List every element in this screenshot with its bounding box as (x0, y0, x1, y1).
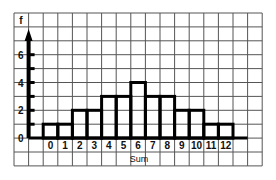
bar-11 (204, 124, 219, 138)
x-tick-11: 11 (206, 140, 217, 151)
x-tick-5: 5 (121, 140, 127, 151)
y-axis-label: f (19, 15, 23, 26)
bar-8 (160, 96, 175, 138)
bar-5 (116, 96, 131, 138)
y-tick-0: 0 (18, 133, 24, 144)
x-tick-6: 6 (135, 140, 141, 151)
bar-0 (43, 124, 58, 138)
y-tick-6: 6 (18, 50, 24, 61)
histogram-chart: 0123456789101112 0246 Sum f (0, 0, 276, 180)
x-tick-9: 9 (179, 140, 185, 151)
bar-4 (102, 96, 117, 138)
x-tick-8: 8 (165, 140, 171, 151)
x-tick-10: 10 (191, 140, 203, 151)
y-tick-labels: 0246 (18, 50, 24, 144)
x-tick-4: 4 (106, 140, 112, 151)
x-tick-0: 0 (48, 140, 54, 151)
y-axis-arrow-icon (25, 29, 33, 41)
y-tick-2: 2 (18, 105, 24, 116)
bar-1 (58, 124, 73, 138)
x-tick-12: 12 (220, 140, 232, 151)
bar-12 (218, 124, 233, 138)
x-tick-7: 7 (150, 140, 156, 151)
x-tick-1: 1 (62, 140, 68, 151)
y-tick-4: 4 (18, 78, 24, 89)
x-tick-3: 3 (92, 140, 98, 151)
bar-7 (145, 96, 160, 138)
x-tick-2: 2 (77, 140, 83, 151)
x-axis-label: Sum (130, 154, 149, 164)
